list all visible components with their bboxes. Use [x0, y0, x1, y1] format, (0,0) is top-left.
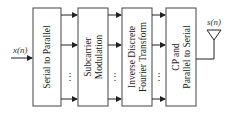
ofdm-block-diagram: x(n) Serial to Parallel ⋮ Subcarrier Mod… — [0, 0, 233, 115]
idft-label-1: Inverse Discrete — [127, 26, 137, 88]
parallel-arrows-1 — [61, 15, 77, 99]
output-line — [196, 40, 214, 59]
parallel-arrows-2 — [108, 15, 121, 99]
serial-to-parallel-label: Serial to Parallel — [42, 25, 52, 89]
subcarrier-modulation-label-2: Modulation — [94, 35, 104, 80]
antenna-icon — [207, 30, 221, 40]
cp-label-1: CP and — [171, 43, 181, 71]
cp-label-2: Parallel to Serial — [182, 25, 192, 89]
ellipsis-1: ⋮ — [65, 72, 75, 82]
parallel-arrows-3 — [152, 15, 165, 99]
ellipsis-3: ⋮ — [154, 72, 164, 82]
ellipsis-2: ⋮ — [110, 72, 120, 82]
idft-label-2: Fourier Transform — [138, 21, 148, 92]
subcarrier-modulation-label-1: Subcarrier — [83, 36, 93, 76]
input-label: x(n) — [12, 45, 28, 55]
output-label: s(n) — [207, 17, 221, 27]
